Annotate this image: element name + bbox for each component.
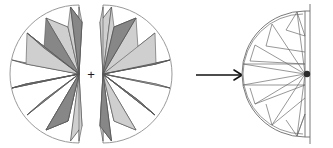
right-wedge-a bbox=[100, 7, 103, 74]
result-hub-marker bbox=[304, 71, 310, 77]
transform-arrow-group bbox=[196, 70, 242, 80]
diagram-svg: + bbox=[0, 0, 333, 148]
left-wedge-h bbox=[79, 74, 82, 141]
left-half-disk-group bbox=[10, 5, 82, 143]
right-half-disk-group bbox=[100, 5, 172, 143]
result-half-disk-group bbox=[242, 4, 310, 144]
result-outer-arc bbox=[242, 11, 305, 137]
diagram-canvas: + bbox=[0, 0, 333, 148]
plus-operator-label: + bbox=[87, 67, 95, 82]
plus-operator-group: + bbox=[87, 67, 95, 82]
